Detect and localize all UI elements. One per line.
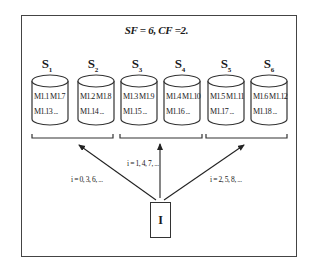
- arrow-label-right: i = 2, 5, 8, ...: [210, 175, 242, 184]
- source-node: I: [150, 202, 171, 238]
- group-bracket-1: [32, 134, 113, 138]
- arrow-label-center: i = 1, 4, 7, ...: [127, 159, 159, 168]
- group-bracket-3: [206, 134, 287, 138]
- source-node-label: I: [158, 213, 163, 228]
- arrow-right: [164, 145, 244, 200]
- arrow-left: [79, 145, 156, 200]
- group-bracket-2: [120, 134, 202, 138]
- arrow-label-left: i = 0, 3, 6, ...: [71, 175, 103, 184]
